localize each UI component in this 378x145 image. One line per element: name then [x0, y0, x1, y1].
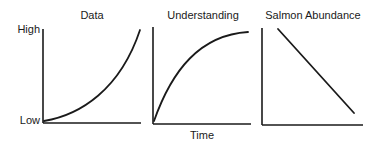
y-label-high: High	[17, 23, 40, 35]
panel-title-salmon-abundance: Salmon Abundance	[265, 9, 360, 21]
panel-salmon-abundance: Salmon Abundance	[262, 9, 363, 125]
panel-data: Data High Low	[17, 9, 141, 126]
y-label-low: Low	[20, 114, 40, 126]
understanding-curve	[154, 32, 248, 121]
panel-title-understanding: Understanding	[167, 9, 239, 21]
figure-three-panels: Data High Low Understanding Time Salmon …	[0, 0, 378, 145]
panel-title-data: Data	[80, 9, 104, 21]
salmon-decline-line	[278, 29, 354, 113]
panel-understanding: Understanding Time	[153, 9, 251, 141]
data-curve	[44, 30, 140, 121]
x-axis-label-time: Time	[190, 129, 214, 141]
